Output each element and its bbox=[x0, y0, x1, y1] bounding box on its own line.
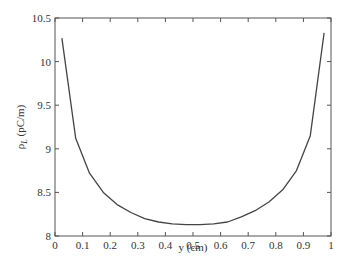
x-tick-label: 0.6 bbox=[214, 239, 228, 251]
x-tick-label: 0.3 bbox=[131, 239, 145, 251]
data-series bbox=[62, 33, 324, 225]
y-tick-label: 8.5 bbox=[37, 186, 51, 198]
x-tick-label: 0.9 bbox=[297, 239, 311, 251]
y-axis-ticks: 88.599.51010.5 bbox=[32, 12, 331, 242]
y-tick-label: 10 bbox=[40, 56, 52, 68]
plot-frame bbox=[55, 18, 331, 236]
y-tick-label: 9.5 bbox=[37, 99, 51, 111]
x-axis-label: y (cm) bbox=[178, 241, 207, 254]
x-tick-label: 0.2 bbox=[103, 239, 117, 251]
y-tick-label: 10.5 bbox=[32, 12, 52, 24]
series-line bbox=[62, 33, 324, 225]
x-tick-label: 0.8 bbox=[269, 239, 283, 251]
x-tick-label: 0.4 bbox=[159, 239, 173, 251]
line-chart: 00.10.20.30.40.50.60.70.80.91 88.599.510… bbox=[0, 0, 344, 270]
y-axis-label-unit: (pC/m) bbox=[14, 104, 27, 139]
y-tick-label: 8 bbox=[46, 230, 52, 242]
axes-box bbox=[55, 18, 331, 236]
x-axis-ticks: 00.10.20.30.40.50.60.70.80.91 bbox=[52, 18, 334, 251]
y-axis-label: ρL (pC/m) bbox=[14, 104, 29, 149]
x-tick-label: 1 bbox=[328, 239, 334, 251]
y-tick-label: 9 bbox=[46, 143, 52, 155]
x-tick-label: 0 bbox=[52, 239, 58, 251]
x-tick-label: 0.7 bbox=[241, 239, 255, 251]
x-tick-label: 0.1 bbox=[76, 239, 90, 251]
